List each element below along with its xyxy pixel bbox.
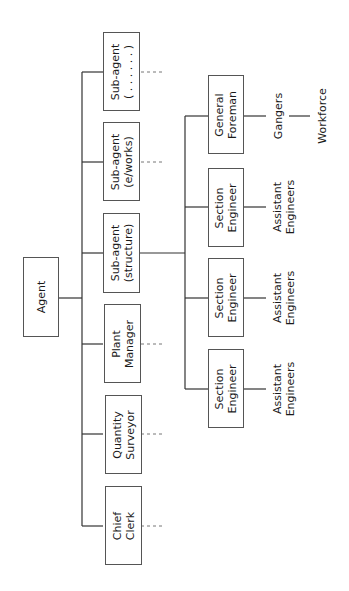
plant-manager-label: PlantManager	[110, 319, 136, 367]
section-engineer-box-2: SectionEngineer	[208, 258, 244, 337]
dashed-continuations	[141, 72, 165, 526]
assistant-engineers-label: AssistantEngineers	[271, 271, 297, 326]
chief-clerk-label: ChiefClerk	[111, 511, 137, 539]
sub-agent-structure-box: Sub-agent(structure)	[103, 213, 140, 293]
general-foreman-box: GeneralForeman	[208, 75, 244, 154]
sub-agent-other-label: Sub-agent( . . . . . . )	[109, 43, 135, 100]
section-engineer-label: SectionEngineer	[213, 183, 239, 232]
section-engineer-box-1: SectionEngineer	[208, 168, 244, 247]
section-engineer-box-3: SectionEngineer	[208, 349, 244, 428]
quantity-surveyor-label: QuantitySurveyor	[111, 410, 137, 460]
chief-clerk-box: ChiefClerk	[105, 486, 142, 565]
general-foreman-label: GeneralForeman	[213, 90, 239, 138]
agent-label: Agent	[35, 281, 48, 314]
sub-agent-eworks-box: Sub-agent(e/works)	[103, 122, 140, 201]
quantity-surveyor-box: QuantitySurveyor	[105, 395, 142, 474]
workforce-label: Workforce	[316, 88, 329, 144]
agent-box: Agent	[23, 257, 59, 337]
plant-manager-box: PlantManager	[104, 304, 141, 383]
sub-agent-eworks-label: Sub-agent(e/works)	[109, 133, 135, 190]
gangers-label: Gangers	[272, 93, 285, 139]
section-engineer-label: SectionEngineer	[213, 364, 239, 413]
sub-agent-other-box: Sub-agent( . . . . . . )	[103, 32, 140, 111]
assistant-engineers-label: AssistantEngineers	[271, 180, 297, 235]
section-engineer-label: SectionEngineer	[213, 273, 239, 322]
sub-agent-structure-label: Sub-agent(structure)	[109, 224, 135, 283]
assistant-engineers-label: AssistantEngineers	[271, 362, 297, 417]
